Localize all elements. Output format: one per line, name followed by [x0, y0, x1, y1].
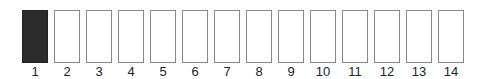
slot-label: 8: [255, 64, 262, 79]
slot-label: 9: [287, 64, 294, 79]
slot-label: 14: [444, 64, 458, 79]
slot-label: 1: [31, 64, 38, 79]
slot-6[interactable]: 6: [182, 10, 208, 79]
slot-box-empty[interactable]: [150, 10, 176, 63]
slot-box-empty[interactable]: [118, 10, 144, 63]
slot-box-empty[interactable]: [310, 10, 336, 63]
slot-label: 12: [380, 64, 394, 79]
slot-strip: 1234567891011121314: [22, 10, 464, 79]
slot-label: 6: [191, 64, 198, 79]
slot-box-empty[interactable]: [438, 10, 464, 63]
slot-box-empty[interactable]: [86, 10, 112, 63]
slot-9[interactable]: 9: [278, 10, 304, 79]
slot-12[interactable]: 12: [374, 10, 400, 79]
slot-label: 4: [127, 64, 134, 79]
slot-2[interactable]: 2: [54, 10, 80, 79]
slot-7[interactable]: 7: [214, 10, 240, 79]
slot-box-empty[interactable]: [214, 10, 240, 63]
slot-13[interactable]: 13: [406, 10, 432, 79]
slot-5[interactable]: 5: [150, 10, 176, 79]
slot-label: 5: [159, 64, 166, 79]
slot-8[interactable]: 8: [246, 10, 272, 79]
slot-11[interactable]: 11: [342, 10, 368, 79]
slot-4[interactable]: 4: [118, 10, 144, 79]
slot-box-empty[interactable]: [246, 10, 272, 63]
slot-14[interactable]: 14: [438, 10, 464, 79]
slot-box-empty[interactable]: [374, 10, 400, 63]
slot-box-empty[interactable]: [406, 10, 432, 63]
slot-label: 3: [95, 64, 102, 79]
slot-label: 7: [223, 64, 230, 79]
slot-10[interactable]: 10: [310, 10, 336, 79]
slot-label: 10: [316, 64, 330, 79]
slot-label: 2: [63, 64, 70, 79]
slot-1[interactable]: 1: [22, 10, 48, 79]
slot-box-empty[interactable]: [54, 10, 80, 63]
slot-3[interactable]: 3: [86, 10, 112, 79]
slot-box-empty[interactable]: [278, 10, 304, 63]
slot-label: 13: [412, 64, 426, 79]
slot-box-empty[interactable]: [182, 10, 208, 63]
slot-box-empty[interactable]: [342, 10, 368, 63]
slot-box-filled[interactable]: [22, 10, 48, 63]
slot-label: 11: [348, 64, 362, 79]
